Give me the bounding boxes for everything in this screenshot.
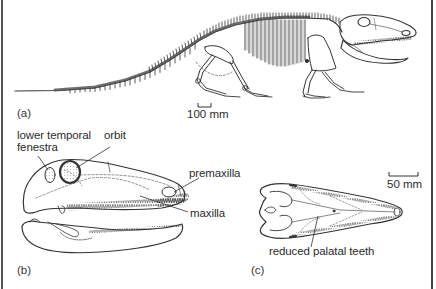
premaxilla-naris — [162, 187, 176, 197]
femur — [197, 55, 215, 82]
scale-label-a: 100 mm — [187, 108, 229, 120]
pelvis — [205, 46, 233, 64]
label-maxilla: maxilla — [190, 207, 225, 219]
scale-label-c: 50 mm — [387, 178, 422, 190]
panel-label-b: (b) — [17, 264, 31, 276]
skull-panel-c — [259, 184, 402, 239]
label-reduced-palatal-teeth: reduced palatal teeth — [269, 245, 374, 257]
skull-lateral-a — [340, 15, 416, 64]
skull-panel-b — [22, 159, 185, 252]
panel-label-c: (c) — [251, 264, 264, 276]
label-fenestra: fenestra — [17, 141, 58, 153]
figure-frame: (a) (b) (c) 100 mm 50 mm lower temporal … — [0, 0, 436, 289]
scale-bar-a — [198, 103, 211, 107]
panel-label-a: (a) — [17, 107, 31, 119]
label-premaxilla: premaxilla — [189, 167, 240, 179]
scapula — [308, 35, 336, 71]
label-lower-temporal: lower temporal — [17, 129, 91, 141]
label-orbit: orbit — [104, 129, 126, 141]
skeleton-panel-a — [15, 13, 416, 98]
scale-bar-c — [389, 172, 418, 176]
